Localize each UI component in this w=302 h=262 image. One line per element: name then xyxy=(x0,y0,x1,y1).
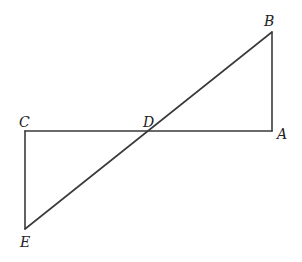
geometry-diagram: B C D A E xyxy=(0,0,302,262)
label-d: D xyxy=(142,114,154,130)
label-a: A xyxy=(275,126,287,142)
label-b: B xyxy=(263,13,274,29)
label-c: C xyxy=(19,114,30,130)
label-e: E xyxy=(19,234,30,250)
